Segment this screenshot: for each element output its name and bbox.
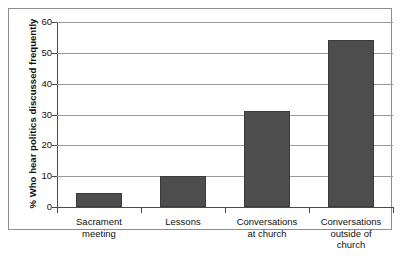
x-axis-label-1: Lessons: [141, 216, 225, 228]
x-axis-label-2-line-2: at church: [225, 228, 309, 240]
y-axis-tick-labels: 0102030405060: [28, 22, 52, 207]
x-axis-label-3: Conversationsoutside ofchurch: [309, 216, 393, 251]
x-axis-tick-labels: SacramentmeetingLessonsConversationsat c…: [57, 216, 393, 268]
y-tick-label-50: 50: [30, 48, 52, 58]
y-tick-label-20: 20: [30, 140, 52, 150]
x-axis-label-1-line-1: Lessons: [141, 216, 225, 228]
y-tick-label-60: 60: [30, 17, 52, 27]
x-axis-label-2: Conversationsat church: [225, 216, 309, 239]
y-tick-label-0: 0: [30, 202, 52, 212]
bar-1: [160, 176, 206, 207]
x-tick-mark-4: [393, 208, 394, 213]
bar-2: [244, 111, 290, 207]
y-tick-label-30: 30: [30, 110, 52, 120]
bar-0: [76, 193, 122, 207]
bar-chart-figure: % Who hear politics discussed frequently…: [0, 0, 411, 271]
x-axis-label-3-line-2: outside of: [309, 228, 393, 240]
bar-3: [328, 40, 374, 207]
x-axis-label-2-line-1: Conversations: [225, 216, 309, 228]
plot-area: [57, 22, 393, 207]
x-axis-label-0-line-1: Sacrament: [57, 216, 141, 228]
x-tick-mark-3: [309, 208, 310, 213]
x-axis-label-0-line-2: meeting: [57, 228, 141, 240]
x-axis-label-3-line-3: church: [309, 239, 393, 251]
x-axis-label-0: Sacramentmeeting: [57, 216, 141, 239]
y-tick-label-40: 40: [30, 79, 52, 89]
x-axis-label-3-line-1: Conversations: [309, 216, 393, 228]
gridline-60: [57, 22, 393, 23]
y-tick-label-10: 10: [30, 171, 52, 181]
x-tick-mark-0: [57, 208, 58, 213]
x-tick-mark-2: [225, 208, 226, 213]
x-tick-mark-1: [141, 208, 142, 213]
